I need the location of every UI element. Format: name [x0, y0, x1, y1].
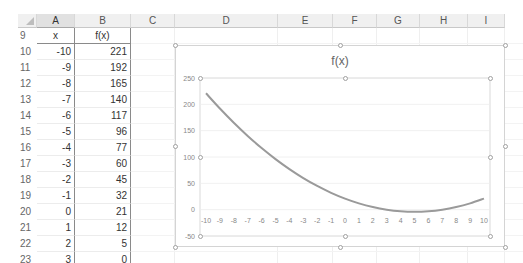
chart-resize-handle[interactable] [173, 144, 178, 149]
x-tick-label: -8 [231, 217, 237, 224]
plot-area-resize-handle[interactable] [198, 234, 203, 239]
y-tick-label: 100 [183, 154, 195, 161]
x-tick-label: -5 [272, 217, 278, 224]
x-tick-label: 4 [399, 217, 403, 224]
y-tick-label: 250 [183, 75, 195, 82]
y-tick-label: -50 [185, 233, 195, 240]
x-tick-label: 6 [426, 217, 430, 224]
x-tick-label: -7 [245, 217, 251, 224]
plot-area-resize-handle[interactable] [343, 234, 348, 239]
chart-resize-handle[interactable] [503, 144, 508, 149]
series-line-fx[interactable] [206, 93, 484, 212]
chart-resize-handle[interactable] [338, 43, 343, 48]
line-chart[interactable]: 250200150100500-50-10-9-8-7-6-5-4-3-2-10… [0, 0, 523, 263]
x-tick-label: -10 [201, 217, 211, 224]
plot-area-resize-handle[interactable] [488, 234, 493, 239]
plot-area-resize-handle[interactable] [488, 76, 493, 81]
x-tick-label: 7 [440, 217, 444, 224]
x-tick-label: 2 [371, 217, 375, 224]
x-tick-label: -3 [300, 217, 306, 224]
chart-resize-handle[interactable] [503, 43, 508, 48]
y-tick-label: 150 [183, 127, 195, 134]
plot-area-resize-handle[interactable] [198, 155, 203, 160]
y-tick-label: 200 [183, 101, 195, 108]
chart-resize-handle[interactable] [173, 245, 178, 250]
chart-resize-handle[interactable] [173, 43, 178, 48]
x-tick-label: 3 [385, 217, 389, 224]
chart-resize-handle[interactable] [503, 245, 508, 250]
x-tick-label: -4 [286, 217, 292, 224]
plot-area-resize-handle[interactable] [343, 76, 348, 81]
x-tick-label: 0 [343, 217, 347, 224]
x-tick-label: 10 [480, 217, 488, 224]
x-tick-label: -9 [217, 217, 223, 224]
x-tick-label: 5 [413, 217, 417, 224]
plot-area-resize-handle[interactable] [198, 76, 203, 81]
x-tick-label: 9 [468, 217, 472, 224]
y-tick-label: 0 [191, 206, 195, 213]
x-tick-label: 8 [454, 217, 458, 224]
x-tick-label: -1 [328, 217, 334, 224]
x-tick-label: 1 [357, 217, 361, 224]
x-tick-label: -2 [314, 217, 320, 224]
chart-resize-handle[interactable] [338, 245, 343, 250]
plot-area-resize-handle[interactable] [488, 155, 493, 160]
y-tick-label: 50 [187, 180, 195, 187]
x-tick-label: -6 [258, 217, 264, 224]
